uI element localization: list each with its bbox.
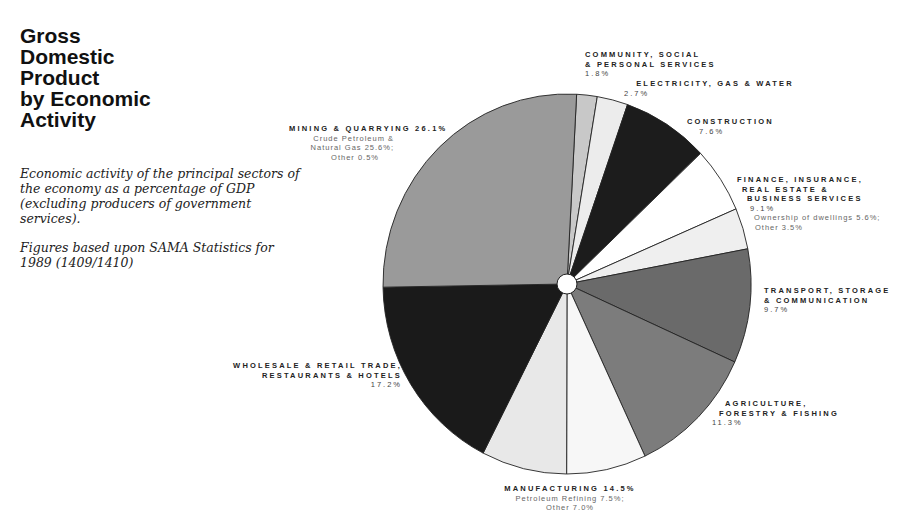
label-text: & COMMUNICATION: [764, 296, 891, 306]
label-finance: FINANCE, INSURANCE, REAL ESTATE & BUSINE…: [737, 175, 880, 232]
label-value: 1.8%: [585, 69, 716, 79]
label-text: MANUFACTURING 14.5%: [490, 484, 650, 494]
label-text: MINING & QUARRYING 26.1%: [289, 124, 459, 134]
label-construction: CONSTRUCTION 7.6%: [687, 117, 774, 136]
label-wholesale: WHOLESALE & RETAIL TRADE, RESTAURANTS & …: [230, 361, 402, 390]
label-subtext: Natural Gas 25.6%;: [289, 143, 394, 153]
label-agriculture: AGRICULTURE, FORESTRY & FISHING 11.3%: [712, 399, 839, 428]
label-value: 17.2%: [230, 380, 402, 390]
label-value: 9.1%: [737, 204, 880, 214]
label-text: FORESTRY & FISHING: [712, 409, 839, 419]
label-text: COMMUNITY, SOCIAL: [585, 50, 716, 60]
label-subtext: Ownership of dwellings 5.6%;: [737, 213, 880, 223]
label-transport: TRANSPORT, STORAGE & COMMUNICATION 9.7%: [764, 286, 891, 315]
label-subtext: Crude Petroleum &: [289, 134, 394, 144]
label-text: ELECTRICITY, GAS & WATER: [610, 79, 820, 89]
label-text: TRANSPORT, STORAGE: [764, 286, 891, 296]
label-text: AGRICULTURE,: [712, 399, 839, 409]
label-value: 2.7%: [610, 89, 820, 99]
label-subtext: Other 3.5%: [737, 223, 880, 233]
label-text: RESTAURANTS & HOTELS: [230, 371, 402, 381]
pie-slice: [383, 94, 577, 287]
label-manufacturing: MANUFACTURING 14.5% Petroleum Refining 7…: [490, 484, 650, 513]
label-mining: MINING & QUARRYING 26.1% Crude Petroleum…: [289, 124, 459, 162]
label-subtext: Petroleum Refining 7.5%;: [490, 494, 650, 504]
pie-center-hole: [557, 274, 577, 294]
label-value: 7.6%: [687, 127, 774, 137]
label-text: BUSINESS SERVICES: [737, 194, 880, 204]
label-text: WHOLESALE & RETAIL TRADE,: [230, 361, 402, 371]
label-text: CONSTRUCTION: [687, 117, 774, 127]
label-text: & PERSONAL SERVICES: [585, 60, 716, 70]
label-subtext: Other 0.5%: [289, 153, 379, 163]
label-community: COMMUNITY, SOCIAL & PERSONAL SERVICES 1.…: [585, 50, 716, 79]
label-subtext: Other 7.0%: [490, 503, 650, 513]
label-text: FINANCE, INSURANCE,: [737, 175, 880, 185]
label-value: 11.3%: [712, 418, 839, 428]
label-text: REAL ESTATE &: [737, 185, 880, 195]
label-electricity: ELECTRICITY, GAS & WATER 2.7%: [610, 79, 820, 98]
label-value: 9.7%: [764, 305, 891, 315]
